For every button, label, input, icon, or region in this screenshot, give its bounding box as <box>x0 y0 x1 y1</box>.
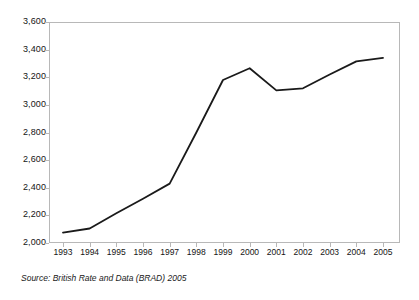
y-tick-mark <box>45 105 49 106</box>
y-tick-mark <box>45 50 49 51</box>
line-chart-figure: 2,0002,2002,4002,6002,8003,0003,2003,400… <box>0 0 419 300</box>
x-tick-mark <box>170 243 171 247</box>
x-tick-mark <box>143 243 144 247</box>
y-tick-mark <box>45 22 49 23</box>
x-tick-mark <box>250 243 251 247</box>
y-tick-mark <box>45 77 49 78</box>
x-tick-mark <box>116 243 117 247</box>
x-tick-mark <box>276 243 277 247</box>
y-tick-mark <box>45 133 49 134</box>
x-tick-mark <box>63 243 64 247</box>
data-series-line <box>0 0 419 300</box>
x-tick-mark <box>383 243 384 247</box>
x-tick-mark <box>330 243 331 247</box>
x-tick-mark <box>90 243 91 247</box>
series-polyline <box>63 58 383 233</box>
source-note: Source: British Rate and Data (BRAD) 200… <box>21 273 186 284</box>
y-tick-mark <box>45 188 49 189</box>
x-tick-mark <box>356 243 357 247</box>
y-tick-mark <box>45 160 49 161</box>
y-tick-mark <box>45 243 49 244</box>
x-tick-mark <box>303 243 304 247</box>
y-tick-mark <box>45 215 49 216</box>
x-tick-mark <box>223 243 224 247</box>
x-tick-mark <box>196 243 197 247</box>
